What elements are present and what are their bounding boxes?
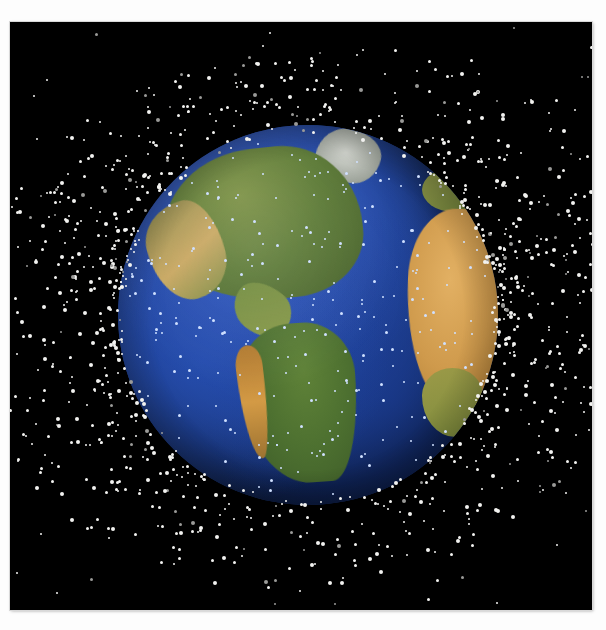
- page-background: [0, 0, 606, 630]
- photo-frame: [10, 22, 592, 610]
- earth-sphere: [118, 125, 498, 505]
- landmass-europe: [422, 167, 487, 213]
- earth-globe: [118, 125, 498, 505]
